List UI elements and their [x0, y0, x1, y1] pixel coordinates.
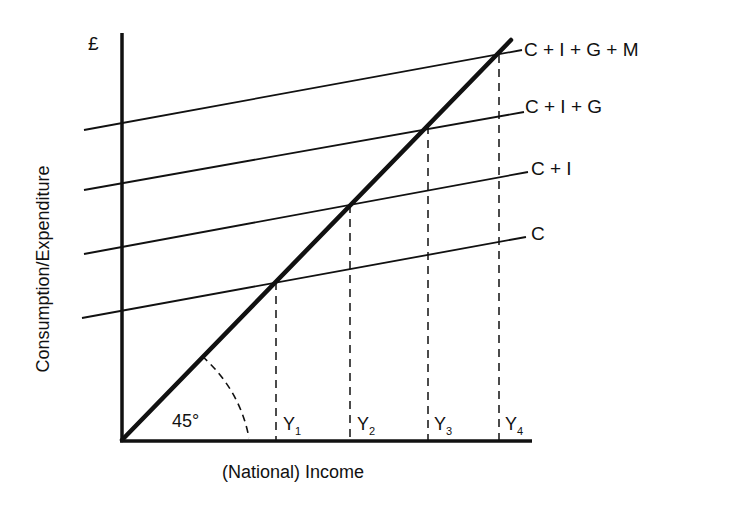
line-cigm [84, 50, 522, 130]
label-cigm: C + I + G + M [524, 39, 639, 61]
label-ci: C + I [531, 158, 572, 180]
label-cig: C + I + G [525, 96, 602, 118]
y-axis-label: Consumption/Expenditure [33, 173, 54, 373]
tick-y3: Y3 [434, 414, 452, 437]
x-axis-label: (National) Income [222, 462, 364, 483]
tick-y4: Y4 [505, 414, 523, 437]
label-c: C [531, 223, 545, 245]
pound-label: £ [88, 33, 99, 55]
line-45 [122, 40, 511, 440]
tick-y2: Y2 [357, 414, 375, 437]
line-cig [84, 112, 524, 190]
line-c [82, 237, 526, 318]
angle-label: 45° [172, 411, 199, 432]
tick-y1: Y1 [283, 414, 301, 437]
line-ci [84, 172, 528, 254]
angle-arc [202, 356, 249, 438]
